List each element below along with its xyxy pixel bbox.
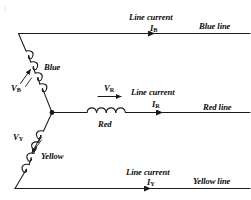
blue-line-current-symbol: IB xyxy=(150,24,157,34)
v-y-label: VY xyxy=(13,133,23,143)
i-b-subscript: B xyxy=(153,26,157,33)
v-y-voltage-arrow xyxy=(32,136,41,154)
blue-winding-label: Blue xyxy=(44,63,60,72)
star-connection-diagram: Line current IB Blue line Blue VB VR Lin… xyxy=(0,0,251,200)
v-b-subscript: B xyxy=(17,86,21,93)
yellow-winding-lead-top xyxy=(44,113,53,132)
v-r-subscript: R xyxy=(110,86,114,93)
yellow-winding-lead-bottom xyxy=(15,169,26,188)
yellow-winding-label: Yellow xyxy=(41,152,63,161)
v-b-reference-tick xyxy=(26,78,32,87)
red-line-current-symbol: IR xyxy=(152,100,160,110)
red-line-label: Red line xyxy=(203,103,232,112)
i-y-subscript: Y xyxy=(150,180,154,187)
v-r-label: VR xyxy=(104,84,114,94)
red-coil-turn-2 xyxy=(97,108,107,113)
blue-winding-lead-top xyxy=(19,34,27,52)
red-coil-turn-3 xyxy=(106,108,116,113)
blue-line-current-caption: Line current xyxy=(129,13,172,22)
red-winding-label: Red xyxy=(98,120,112,129)
star-point-junction xyxy=(50,110,55,115)
blue-line-label: Blue line xyxy=(199,22,230,31)
v-b-label: VB xyxy=(11,84,21,94)
yellow-line-label: Yellow line xyxy=(193,177,230,186)
yellow-line-current-symbol: IY xyxy=(147,178,155,188)
v-y-subscript: Y xyxy=(19,135,23,142)
red-line-current-caption: Line current xyxy=(131,88,174,97)
i-r-subscript: R xyxy=(155,102,159,109)
red-coil-turn-1 xyxy=(87,108,97,113)
yellow-line-current-caption: Line current xyxy=(126,168,169,177)
red-coil-turn-4 xyxy=(116,108,126,113)
blue-winding-lead-bottom xyxy=(43,89,53,113)
